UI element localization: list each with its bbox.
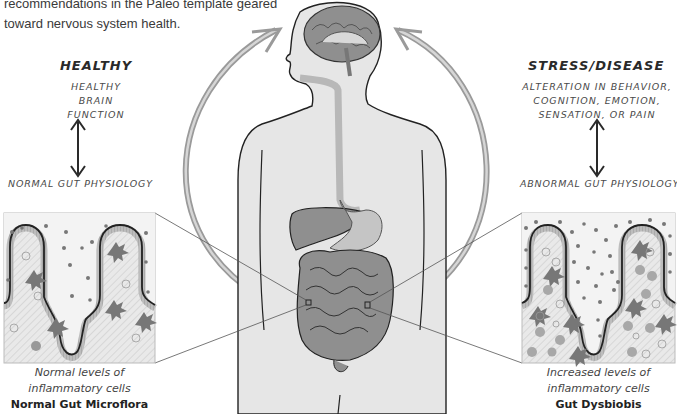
right-caption: Increased levels of inflammatory cells G… — [522, 365, 675, 413]
dysbiosis-villi-box — [522, 213, 677, 367]
left-caption-line-1: Normal levels of — [4, 365, 155, 381]
normal-villi-box — [4, 213, 157, 363]
right-caption-line-2: inflammatory cells — [522, 381, 675, 397]
right-caption-line-1: Increased levels of — [522, 365, 675, 381]
bidirectional-arrow-icon — [590, 120, 604, 176]
left-caption-line-2: inflammatory cells — [4, 381, 155, 397]
gut-brain-diagram — [0, 0, 677, 414]
left-caption: Normal levels of inflammatory cells Norm… — [4, 365, 155, 413]
normal-gut-microflora-title: Normal Gut Microflora — [4, 397, 155, 413]
gut-dysbiosis-title: Gut Dysbiobis — [522, 397, 675, 413]
bidirectional-arrow-icon — [71, 120, 85, 176]
